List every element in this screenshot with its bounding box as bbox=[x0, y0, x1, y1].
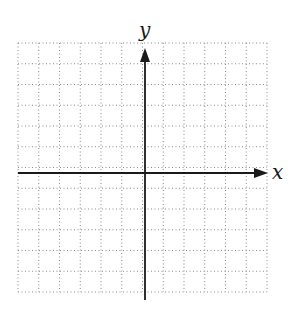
coordinate-plane: x y bbox=[0, 0, 290, 310]
axes: x y bbox=[18, 18, 283, 300]
x-axis-label: x bbox=[272, 160, 283, 184]
y-axis-arrow-icon bbox=[140, 48, 150, 62]
x-axis-arrow-icon bbox=[254, 168, 268, 178]
y-axis-label: y bbox=[138, 18, 151, 42]
grid bbox=[18, 43, 267, 292]
